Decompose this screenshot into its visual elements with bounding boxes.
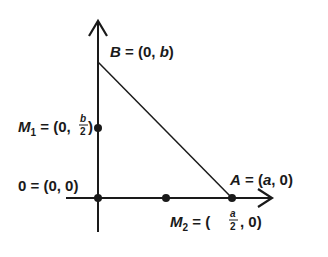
m1-close: ) — [88, 118, 93, 135]
m2-frac-num: a — [230, 208, 236, 219]
point-a — [228, 194, 236, 202]
m1-frac-num: b — [80, 113, 86, 124]
point-origin — [94, 194, 102, 202]
m2-frac-den: 2 — [230, 221, 236, 232]
coordinate-diagram: B = (0, b) M1 = (0, b 2 ) 0 = (0, 0) A =… — [0, 0, 328, 257]
label-m1: M1 = (0, — [18, 118, 71, 138]
m2-close: , 0) — [240, 213, 262, 230]
point-m2 — [162, 194, 170, 202]
hypotenuse-line — [98, 62, 232, 198]
label-a: A = (a, 0) — [229, 171, 293, 188]
m1-frac-den: 2 — [80, 126, 86, 137]
label-origin: 0 = (0, 0) — [18, 177, 78, 194]
point-m1 — [94, 124, 102, 132]
label-b: B = (0, b) — [110, 43, 174, 60]
label-m2: M2 = ( — [170, 213, 210, 233]
